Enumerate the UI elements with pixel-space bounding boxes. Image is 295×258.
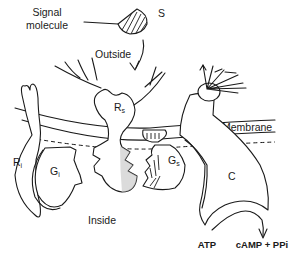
signal-molecule-label-line2: molecule [26,19,68,31]
reaction-arrow [212,211,263,236]
c-antenna [203,65,246,93]
signal-molecule-label-line1: Signal [32,6,61,18]
diagram-canvas: Signal molecule S Outside Membrane Ri Gi… [0,0,295,258]
atp-label: ATP [198,239,217,250]
rs-antenna-right [134,73,165,105]
inside-label: Inside [88,214,116,226]
ri-receptor [15,84,41,217]
signal-molecule-shape [118,9,147,34]
rs-stipple [120,146,137,192]
rs-antenna-branches-left [65,58,97,80]
c-label: C [228,170,236,182]
outside-label: Outside [95,48,131,60]
products-label: cAMP + PPi [236,239,288,250]
c-catalytic-unit [180,93,268,225]
rs-antenna-branches-right [145,67,162,87]
c-head [198,83,220,101]
gs-protein [143,145,185,190]
signal-transduction-diagram: Signal molecule S Outside Membrane Ri Gi… [0,0,295,258]
s-label: S [158,7,165,19]
c-antenna-tips [200,65,236,73]
signal-molecule-leader-line [84,22,118,24]
